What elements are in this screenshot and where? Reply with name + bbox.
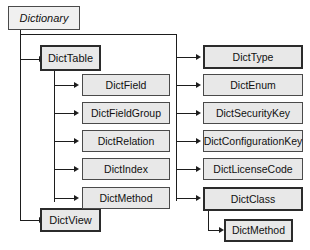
node-dictmethod-table[interactable]: DictMethod bbox=[82, 187, 170, 209]
node-dictfield[interactable]: DictField bbox=[82, 74, 170, 96]
node-dictfieldgroup-label: DictFieldGroup bbox=[91, 108, 161, 119]
arrowhead-dictrelation bbox=[74, 138, 79, 144]
node-dictconfigurationkey[interactable]: DictConfigurationKey bbox=[203, 130, 303, 152]
arrowhead-dictfieldgroup bbox=[74, 110, 79, 116]
edge-dicttable-to-dictrelation bbox=[54, 141, 75, 142]
node-dictmethod-class-label: DictMethod bbox=[232, 225, 285, 236]
edge-to-dicttype bbox=[176, 57, 197, 58]
edge-dictionary-top-rail bbox=[20, 34, 177, 35]
node-dictconfigurationkey-label: DictConfigurationKey bbox=[204, 136, 303, 147]
arrowhead-dictfield bbox=[74, 82, 79, 88]
node-dictenum[interactable]: DictEnum bbox=[203, 74, 303, 96]
node-dictfield-label: DictField bbox=[106, 80, 147, 91]
arrowhead-dictsecuritykey bbox=[196, 110, 201, 116]
node-dictrelation-label: DictRelation bbox=[98, 136, 155, 147]
arrowhead-dicttype bbox=[196, 54, 201, 60]
node-dictionary-label: Dictionary bbox=[20, 13, 69, 24]
node-dictsecuritykey[interactable]: DictSecurityKey bbox=[203, 102, 303, 124]
node-dictclass-label: DictClass bbox=[231, 194, 275, 205]
edge-dicttable-to-dictfieldgroup bbox=[54, 113, 75, 114]
edge-dicttable-trunk bbox=[54, 71, 55, 202]
edge-dictionary-to-dictview bbox=[20, 220, 40, 221]
edge-to-dictlicensecode bbox=[176, 169, 197, 170]
edge-dicttable-to-dictfield bbox=[54, 85, 75, 86]
node-dictsecuritykey-label: DictSecurityKey bbox=[216, 108, 290, 119]
dictionary-hierarchy-diagram: Dictionary DictTable DictView DictField … bbox=[0, 0, 310, 250]
node-dictmethod-class[interactable]: DictMethod bbox=[224, 219, 293, 242]
edge-dictionary-to-dicttable bbox=[20, 59, 40, 60]
node-dictrelation[interactable]: DictRelation bbox=[82, 130, 170, 152]
arrowhead-dictenum bbox=[196, 82, 201, 88]
edge-dicttable-to-dictmethod bbox=[54, 198, 75, 199]
edge-right-column-trunk bbox=[176, 34, 177, 201]
node-dictlicensecode-label: DictLicenseCode bbox=[213, 164, 292, 175]
node-dictclass[interactable]: DictClass bbox=[203, 187, 303, 211]
node-dictview-label: DictView bbox=[49, 215, 92, 226]
node-dicttype[interactable]: DictType bbox=[203, 45, 303, 69]
node-dictmethod-table-label: DictMethod bbox=[99, 193, 152, 204]
node-dictfieldgroup[interactable]: DictFieldGroup bbox=[82, 102, 170, 124]
node-dictenum-label: DictEnum bbox=[230, 80, 276, 91]
arrowhead-dictlicensecode bbox=[196, 166, 201, 172]
node-dictionary[interactable]: Dictionary bbox=[8, 6, 80, 30]
edge-dictclass-trunk bbox=[208, 211, 209, 231]
node-dictview[interactable]: DictView bbox=[40, 208, 101, 232]
edge-to-dictconfigurationkey bbox=[176, 141, 197, 142]
edge-dicttable-to-dictindex bbox=[54, 169, 75, 170]
arrowhead-dictindex bbox=[74, 166, 79, 172]
node-dicttable[interactable]: DictTable bbox=[40, 45, 101, 71]
node-dicttable-label: DictTable bbox=[48, 53, 93, 64]
edge-to-dictclass bbox=[176, 198, 197, 199]
edge-to-dictsecuritykey bbox=[176, 113, 197, 114]
node-dicttype-label: DictType bbox=[233, 52, 274, 63]
node-dictindex[interactable]: DictIndex bbox=[82, 158, 170, 180]
node-dictlicensecode[interactable]: DictLicenseCode bbox=[203, 158, 303, 180]
arrowhead-dictclass bbox=[196, 195, 201, 201]
edge-to-dictenum bbox=[176, 85, 197, 86]
arrowhead-dictconfigurationkey bbox=[196, 138, 201, 144]
node-dictindex-label: DictIndex bbox=[104, 164, 148, 175]
arrowhead-dictmethod-table bbox=[74, 195, 79, 201]
